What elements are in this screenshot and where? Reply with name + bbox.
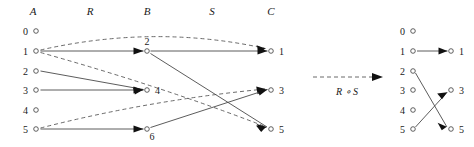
node-dot-A-5[interactable]	[34, 127, 39, 132]
node-dot-A-4[interactable]	[34, 108, 39, 113]
node-dot-result-domain-5[interactable]	[411, 127, 416, 132]
node-dot-result-domain-1[interactable]	[411, 49, 416, 54]
left-diagram: A R B S C	[23, 5, 284, 142]
node-dot-result-domain-3[interactable]	[411, 88, 416, 93]
node-dot-A-2[interactable]	[34, 69, 39, 74]
arrowhead-result-5-to-3	[437, 92, 447, 99]
node-label-A-1: 1	[23, 46, 28, 57]
figure-canvas: A R B S C	[0, 0, 474, 147]
column-header-C: C	[267, 5, 275, 17]
column-header-R: R	[86, 5, 94, 17]
node-label-A-4: 4	[23, 105, 28, 116]
column-header-S: S	[209, 5, 215, 17]
node-dot-result-codomain-5[interactable]	[449, 127, 454, 132]
node-label-result-codomain-3: 3	[459, 85, 464, 96]
arrowhead-R-1-to-2	[134, 47, 144, 54]
node-label-A-0: 0	[23, 26, 28, 37]
node-label-A-2: 2	[23, 66, 28, 77]
node-dot-A-0[interactable]	[34, 29, 39, 34]
relation-R-edges	[41, 47, 144, 132]
arrowhead-R-3-to-4	[134, 86, 144, 93]
node-dot-C-5[interactable]	[269, 127, 274, 132]
node-dot-result-domain-2[interactable]	[411, 69, 416, 74]
node-dot-B-6[interactable]	[145, 127, 150, 132]
node-label-B-2: 2	[145, 36, 150, 47]
right-diagram-edges	[416, 48, 448, 131]
transition-arrowhead	[372, 73, 383, 81]
right-diagram: 0 1 2 3 4 5 1 3 5	[400, 26, 464, 135]
column-header-B: B	[144, 5, 151, 17]
node-label-C-1: 1	[279, 46, 284, 57]
solid-edge-result-2-to-5	[416, 73, 447, 127]
node-label-result-codomain-5: 5	[459, 124, 464, 135]
set-A-nodes: 0 1 2 3 4 5	[23, 26, 38, 135]
column-header-A: A	[29, 5, 37, 17]
node-label-result-domain-3: 3	[400, 85, 405, 96]
node-label-result-domain-1: 1	[400, 46, 405, 57]
node-label-C-5: 5	[279, 124, 284, 135]
arrowhead-S-6-to-3	[257, 89, 268, 96]
node-label-result-domain-5: 5	[400, 124, 405, 135]
relation-S-edges	[151, 47, 268, 130]
set-C-nodes: 1 3 5	[269, 46, 284, 135]
node-dot-B-2[interactable]	[145, 49, 150, 54]
transition-arrow-group: R ∘ S	[313, 73, 383, 97]
node-label-result-domain-4: 4	[400, 105, 405, 116]
node-dot-A-3[interactable]	[34, 88, 39, 93]
arrowhead-R-5-to-6	[134, 125, 144, 132]
node-label-result-domain-2: 2	[400, 66, 405, 77]
right-domain-nodes: 0 1 2 3 4 5	[400, 26, 415, 135]
node-dot-A-1[interactable]	[34, 49, 39, 54]
node-label-result-codomain-1: 1	[459, 46, 464, 57]
node-dot-C-1[interactable]	[269, 49, 274, 54]
arrowhead-result-1-to-1	[439, 48, 448, 55]
node-dot-B-4[interactable]	[145, 88, 150, 93]
dashed-edge-5-to-3	[41, 89, 266, 128]
node-dot-C-3[interactable]	[269, 88, 274, 93]
node-label-A-5: 5	[23, 124, 28, 135]
node-label-B-6: 6	[150, 131, 155, 142]
node-label-C-3: 3	[279, 85, 284, 96]
node-label-A-3: 3	[23, 85, 28, 96]
dashed-edge-1-to-1	[41, 37, 266, 50]
node-label-result-domain-0: 0	[400, 26, 405, 37]
column-headers: A R B S C	[29, 5, 276, 17]
set-B-nodes: 2 4 6	[145, 36, 161, 142]
node-dot-result-domain-4[interactable]	[411, 108, 416, 113]
dashed-edge-1-to-5	[41, 53, 266, 127]
composition-operator-label: R ∘ S	[335, 86, 358, 97]
solid-edge-R-2-to-4	[41, 71, 144, 90]
node-dot-result-domain-0[interactable]	[411, 29, 416, 34]
relation-composition-figure: A R B S C	[0, 0, 474, 147]
right-codomain-nodes: 1 3 5	[449, 46, 464, 135]
node-label-B-4: 4	[155, 85, 160, 96]
node-dot-result-codomain-1[interactable]	[449, 49, 454, 54]
node-dot-result-codomain-3[interactable]	[449, 88, 454, 93]
